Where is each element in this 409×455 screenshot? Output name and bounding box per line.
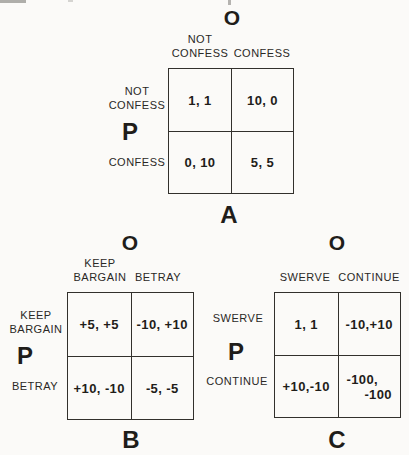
header-line: BETRAY	[135, 270, 181, 284]
header-line: CONTINUE	[338, 270, 399, 284]
matrix-b-row-header-keep-bargain: KEEP BARGAIN	[9, 308, 62, 336]
matrix-c-row-header-swerve: SWERVE	[213, 311, 263, 325]
header-line: CONFESS	[109, 98, 166, 112]
matrix-c-cell-1: 1, 1	[275, 293, 338, 355]
header-line: CONTINUE	[206, 374, 267, 388]
matrix-b-cell-2: -10, +10	[131, 293, 194, 356]
matrix-b-cell-4: -5, -5	[131, 356, 194, 419]
matrix-a-row-header-not-confess: NOT CONFESS	[109, 84, 166, 112]
matrix-c-grid: 1, 1 -10,+10 +10,-10 -100, -100	[274, 292, 401, 418]
matrix-a-label: A	[220, 203, 237, 227]
header-line: BARGAIN	[9, 322, 62, 336]
header-line: SWERVE	[280, 270, 330, 284]
header-line: CONFESS	[109, 155, 166, 169]
matrix-c-cell-3: +10,-10	[275, 355, 338, 417]
header-line: SWERVE	[213, 311, 263, 325]
header-line: BETRAY	[12, 379, 58, 393]
matrix-a-cell-2: 10, 0	[231, 69, 293, 131]
matrix-a-row-header-confess: CONFESS	[109, 155, 166, 169]
matrix-c-column-player-label: O	[329, 232, 345, 253]
header-line: NOT	[172, 32, 229, 46]
header-line: BARGAIN	[73, 270, 126, 284]
matrix-a-column-player-label: O	[224, 7, 240, 28]
matrix-c-col-header-continue: CONTINUE	[338, 270, 399, 284]
matrix-b-cell-1: +5, +5	[68, 293, 131, 356]
header-line: CONFESS	[172, 46, 229, 60]
matrix-c-cell-4: -100, -100	[338, 355, 401, 417]
matrix-b-cell-3: +10, -10	[68, 356, 131, 419]
matrix-c-row-header-continue: CONTINUE	[206, 374, 267, 388]
payoff-line: -100	[339, 387, 401, 402]
matrix-c-cell-2: -10,+10	[338, 293, 401, 355]
scan-artifact	[0, 0, 26, 3]
matrix-b-label: B	[122, 428, 139, 452]
matrix-a-col-header-not-confess: NOT CONFESS	[172, 32, 229, 60]
matrix-a-cell-1: 1, 1	[169, 69, 231, 131]
scan-artifact	[228, 0, 231, 5]
figure-page: O NOT CONFESS CONFESS NOT CONFESS P CONF…	[0, 0, 409, 455]
matrix-a-row-player-label: P	[122, 120, 138, 144]
matrix-a-cell-3: 0, 10	[169, 131, 231, 193]
header-line: NOT	[109, 84, 166, 98]
matrix-b-col-header-keep-bargain: KEEP BARGAIN	[73, 256, 126, 284]
header-line: KEEP	[73, 256, 126, 270]
header-line: CONFESS	[234, 46, 291, 60]
matrix-c-label: C	[328, 428, 345, 452]
matrix-b-column-player-label: O	[122, 232, 138, 253]
matrix-b-col-header-betray: BETRAY	[135, 270, 181, 284]
matrix-a-col-header-confess: CONFESS	[234, 46, 291, 60]
matrix-a-cell-4: 5, 5	[231, 131, 293, 193]
header-line: KEEP	[9, 308, 62, 322]
matrix-b-grid: +5, +5 -10, +10 +10, -10 -5, -5	[67, 292, 194, 420]
scan-artifact	[68, 0, 73, 2]
matrix-c-row-player-label: P	[228, 340, 244, 364]
matrix-b-row-header-betray: BETRAY	[12, 379, 58, 393]
matrix-c-col-header-swerve: SWERVE	[280, 270, 330, 284]
payoff-line: -100,	[339, 372, 401, 387]
matrix-a-grid: 1, 1 10, 0 0, 10 5, 5	[168, 68, 294, 194]
matrix-b-row-player-label: P	[17, 344, 33, 368]
